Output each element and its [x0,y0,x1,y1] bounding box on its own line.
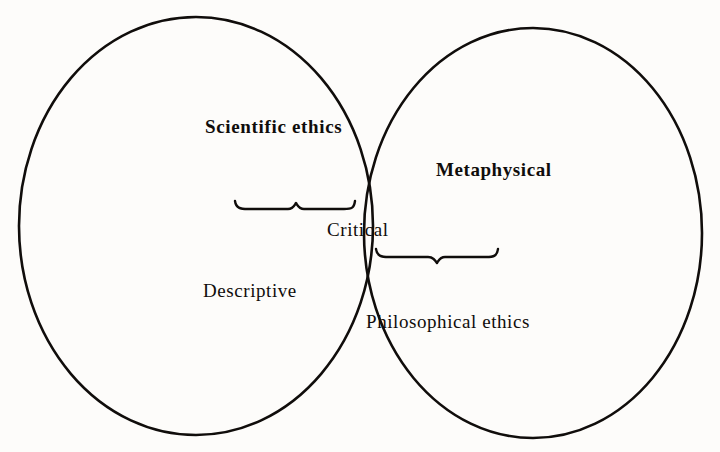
lower-brace-annotation [376,249,498,263]
label-metaphysical: Metaphysical [436,159,552,181]
right-set-circle [364,28,702,438]
label-critical: Critical [327,219,389,241]
label-scientific-ethics: Scientific ethics [205,116,342,138]
left-set-circle [19,17,373,435]
venn-diagram-figure: Scientific ethics Metaphysical Critical … [0,0,720,452]
upper-brace-annotation [235,201,355,209]
label-descriptive: Descriptive [203,280,297,302]
label-philosophical-ethics: Philosophical ethics [366,311,530,333]
